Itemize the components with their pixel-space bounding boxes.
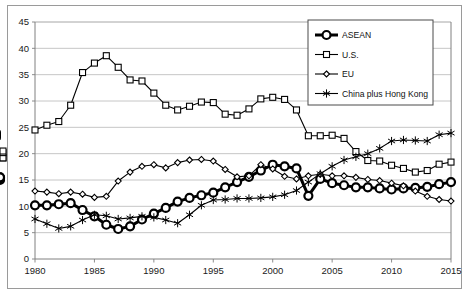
x-tick-label: 2005 <box>322 265 343 276</box>
legend-label: China plus Hong Kong <box>342 89 428 99</box>
y-tick-label: 25 <box>18 122 29 133</box>
y-tick-label: 15 <box>18 174 29 185</box>
series-asean <box>0 161 455 233</box>
x-tick-label: 1985 <box>84 265 105 276</box>
y-tick-label: 30 <box>18 95 29 106</box>
x-tick-label: 2015 <box>440 265 461 276</box>
y-tick-label: 40 <box>18 43 29 54</box>
series-china-plus-hong-kong <box>0 129 455 233</box>
y-tick-label: 5 <box>24 227 29 238</box>
y-tick-label: 0 <box>24 253 29 264</box>
line-chart: 051015202530354045 198019851990199520002… <box>0 0 469 294</box>
chart-screenshot: 051015202530354045 198019851990199520002… <box>0 0 469 294</box>
x-tick-label: 1990 <box>143 265 164 276</box>
legend-label: U.S. <box>342 50 359 60</box>
y-tick-label: 10 <box>18 201 29 212</box>
y-tick-label: 35 <box>18 69 29 80</box>
y-tick-label: 20 <box>18 148 29 159</box>
legend-item-asean[interactable]: ASEAN <box>315 30 371 40</box>
legend-label: ASEAN <box>342 30 371 40</box>
chart-legend[interactable]: ASEANU.S.EUChina plus Hong Kong <box>308 20 433 105</box>
x-axis-ticks: 19801985199019952000200520102015 <box>24 265 461 276</box>
legend-label: EU <box>342 69 354 79</box>
y-tick-label: 45 <box>18 16 29 27</box>
y-axis-ticks: 051015202530354045 <box>18 16 35 264</box>
x-tick-label: 1995 <box>203 265 224 276</box>
x-tick-label: 1980 <box>24 265 45 276</box>
x-tick-label: 2010 <box>381 265 402 276</box>
x-tick-label: 2000 <box>262 265 283 276</box>
